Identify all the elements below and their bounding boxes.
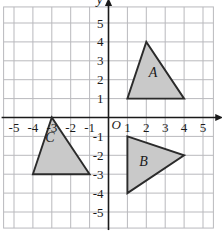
y-tick-label: 3	[97, 53, 104, 68]
x-tick-label: 4	[181, 120, 188, 135]
y-tick-label: 1	[97, 91, 104, 106]
x-tick-label: -2	[65, 120, 76, 135]
origin-label: O	[112, 117, 122, 132]
y-tick-label: -1	[93, 129, 104, 144]
y-tick-label: 5	[97, 16, 104, 31]
coordinate-plane-figure: -5-4-3-2-11234554321-1-2-3-4-5O xy ABC	[0, 0, 222, 239]
y-tick-label: -3	[93, 167, 104, 182]
x-tick-label: 3	[162, 120, 169, 135]
triangle-label-a: A	[148, 65, 158, 80]
y-tick-label: 2	[97, 72, 104, 87]
y-tick-label: 4	[97, 34, 104, 49]
triangle-label-b: B	[139, 154, 148, 169]
x-tick-label: -5	[9, 120, 20, 135]
y-tick-label: -5	[93, 205, 104, 220]
coordinate-plane-svg: -5-4-3-2-11234554321-1-2-3-4-5O xy ABC	[0, 0, 222, 239]
y-axis-label: y	[94, 0, 103, 7]
x-tick-label: 2	[143, 120, 150, 135]
y-tick-label: -4	[93, 186, 104, 201]
y-tick-label: -2	[93, 148, 104, 163]
triangle-label-c: C	[45, 130, 55, 145]
x-tick-label: 1	[124, 120, 131, 135]
x-tick-label: -4	[27, 120, 38, 135]
x-tick-label: 5	[200, 120, 207, 135]
